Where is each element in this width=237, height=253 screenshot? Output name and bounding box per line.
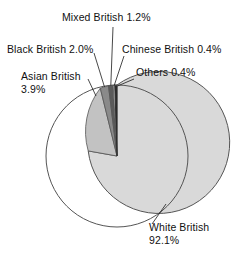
label-white-british: White British 92.1% [149,221,233,246]
pie-chart-page: Mixed British 1.2% Black British 2.0% Ch… [0,0,237,253]
label-chinese-british: Chinese British 0.4% [122,43,221,56]
label-others: Others 0.4% [136,66,195,79]
label-mixed-british: Mixed British 1.2% [62,11,151,24]
pie-chart-svg [0,0,237,253]
label-black-british: Black British 2.0% [7,43,93,56]
label-asian-british: Asian British 3.9% [21,70,101,95]
leader-line-mixed-british [111,27,113,86]
